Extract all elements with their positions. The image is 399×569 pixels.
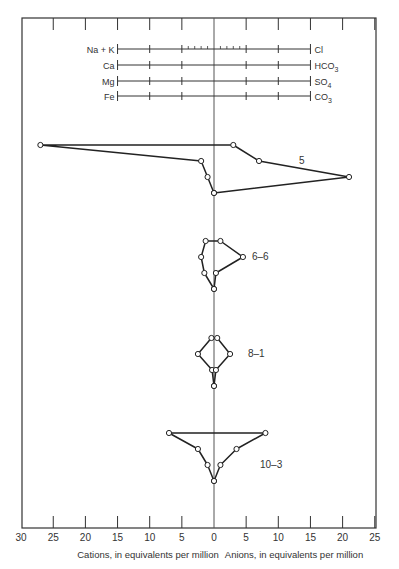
data-point-marker: [195, 446, 200, 451]
data-point-marker: [199, 158, 204, 163]
data-point-marker: [211, 190, 216, 195]
x-axis: 302520151050510152025: [16, 532, 381, 543]
data-point-marker: [240, 254, 245, 259]
sample-polygon: [40, 145, 349, 193]
x-tick-label: 25: [48, 532, 60, 543]
cation-label: Ca: [103, 61, 115, 71]
anion-subscript: 3: [328, 97, 332, 104]
anion-label: HCO3: [314, 61, 338, 73]
stiff-diagram-chart: Na + KClCaHCO3MgSO4FeCO3 56–68–110–3 302…: [0, 0, 399, 569]
sample-label: 5: [299, 155, 305, 166]
x-tick-label: 0: [211, 532, 217, 543]
data-point-marker: [218, 238, 223, 243]
sample-polygon: [201, 241, 243, 289]
data-point-marker: [231, 142, 236, 147]
data-point-marker: [234, 446, 239, 451]
x-tick-label: 5: [179, 532, 185, 543]
data-point-marker: [256, 158, 261, 163]
x-axis-title-anions: Anions, in equivalents per million: [225, 549, 363, 560]
data-point-marker: [211, 478, 216, 483]
x-tick-label: 30: [16, 532, 28, 543]
x-tick-label: 15: [112, 532, 124, 543]
x-tick-label: 10: [273, 532, 285, 543]
data-point-marker: [263, 430, 268, 435]
data-point-marker: [227, 351, 232, 356]
data-point-marker: [346, 174, 351, 179]
sample-label: 10–3: [260, 459, 283, 470]
x-tick-label: 25: [369, 532, 381, 543]
data-point-marker: [215, 335, 220, 340]
sample-polygon: [169, 433, 265, 481]
anion-subscript: 4: [327, 82, 331, 89]
cation-label: Mg: [102, 77, 115, 87]
data-point-marker: [195, 351, 200, 356]
data-point-marker: [209, 335, 214, 340]
data-point-marker: [213, 367, 218, 372]
data-point-marker: [202, 270, 207, 275]
sample-label: 8–1: [248, 348, 265, 359]
anion-label: SO4: [314, 77, 331, 89]
data-point-marker: [38, 142, 43, 147]
data-point-marker: [166, 430, 171, 435]
ion-scale-legend: Na + KClCaHCO3MgSO4FeCO3: [87, 44, 339, 104]
cation-label: Na + K: [87, 45, 115, 55]
x-tick-label: 20: [80, 532, 92, 543]
data-point-marker: [205, 462, 210, 467]
anion-label: CO3: [314, 92, 332, 104]
x-tick-label: 15: [305, 532, 317, 543]
data-point-marker: [218, 462, 223, 467]
data-point-marker: [211, 383, 216, 388]
x-tick-label: 10: [144, 532, 156, 543]
cation-label: Fe: [104, 92, 115, 102]
anion-subscript: 3: [334, 66, 338, 73]
x-axis-title-cations: Cations, in equivalents per million: [77, 549, 219, 560]
data-point-marker: [203, 238, 208, 243]
sample-label: 6–6: [252, 251, 269, 262]
x-tick-label: 20: [337, 532, 349, 543]
data-point-marker: [213, 270, 218, 275]
sample-polygons: 56–68–110–3: [38, 142, 352, 483]
data-point-marker: [199, 254, 204, 259]
anion-label: Cl: [314, 45, 323, 55]
data-point-marker: [211, 286, 216, 291]
data-point-marker: [205, 174, 210, 179]
x-tick-label: 5: [243, 532, 249, 543]
